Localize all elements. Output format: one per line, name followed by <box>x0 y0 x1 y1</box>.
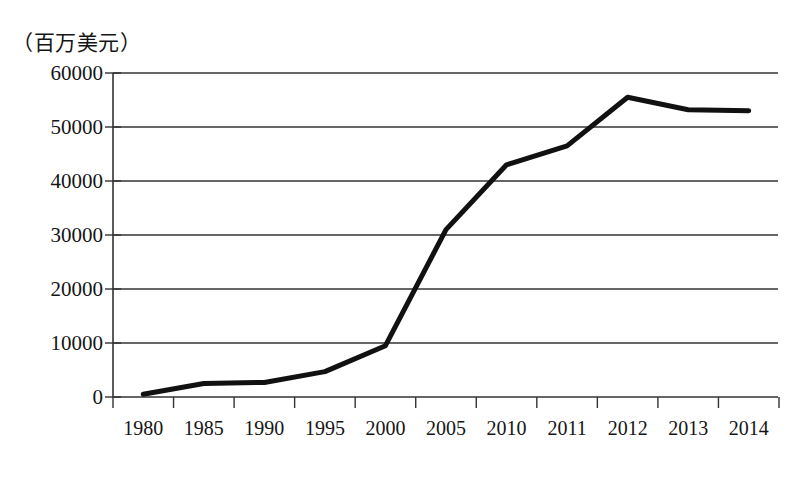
chart-figure: （百万美元） 0100002000030000400005000060000 1… <box>0 0 805 480</box>
x-axis-ticks-group <box>113 397 779 408</box>
x-axis-tick-label: 1985 <box>169 417 239 440</box>
x-axis-tick-label: 2014 <box>714 417 784 440</box>
y-axis-tick-label: 20000 <box>11 277 103 302</box>
x-axis-tick-label: 2011 <box>532 417 602 440</box>
data-series-line <box>143 97 748 394</box>
x-axis-tick-label: 2005 <box>411 417 481 440</box>
plot-area: 0100002000030000400005000060000 19801985… <box>0 0 805 480</box>
x-axis-tick-label: 2013 <box>653 417 723 440</box>
y-axis-tick-label: 0 <box>11 385 103 410</box>
x-axis-tick-label: 2000 <box>350 417 420 440</box>
y-axis-tick-label: 40000 <box>11 169 103 194</box>
y-axis-tick-label: 60000 <box>11 61 103 86</box>
x-axis-tick-label: 1990 <box>229 417 299 440</box>
line-chart-svg <box>0 0 805 480</box>
x-axis-tick-label: 2010 <box>472 417 542 440</box>
y-axis-tick-label: 50000 <box>11 115 103 140</box>
x-axis-tick-label: 2012 <box>593 417 663 440</box>
x-axis-tick-label: 1995 <box>290 417 360 440</box>
y-axis-tick-label: 10000 <box>11 331 103 356</box>
y-axis-tick-label: 30000 <box>11 223 103 248</box>
x-axis-tick-label: 1980 <box>108 417 178 440</box>
